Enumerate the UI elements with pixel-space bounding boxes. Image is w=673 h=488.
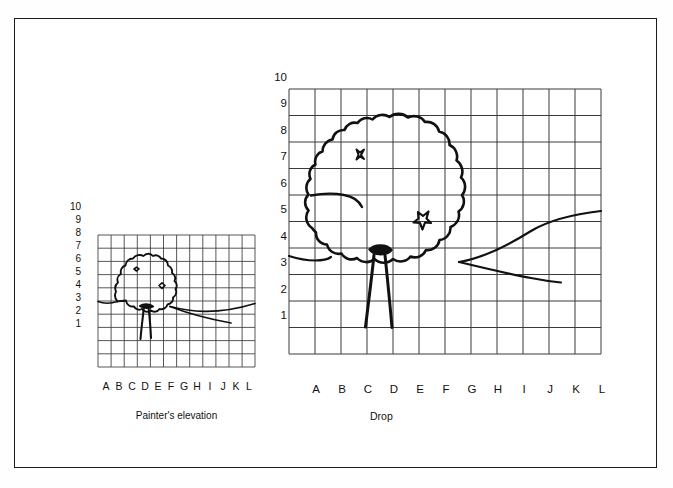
x-tick-right-B: B (333, 384, 351, 396)
x-tick-right-H: H (489, 384, 507, 396)
figure-frame: 10 9 8 7 6 5 4 3 2 1 (14, 18, 657, 468)
chart-right-plot (279, 83, 619, 383)
caption-drop: Drop (370, 410, 500, 422)
canopy-inner-contour (311, 194, 362, 207)
x-tick-right-C: C (359, 384, 377, 396)
x-tick-right-F: F (437, 384, 455, 396)
tree-trunk-right (366, 255, 393, 328)
x-tick-right-L: L (593, 384, 611, 396)
x-tick-right-K: K (567, 384, 585, 396)
tree-canopy-right (305, 114, 465, 263)
x-tick-right-J: J (541, 384, 559, 396)
x-tick-right-A: A (307, 384, 325, 396)
x-tick-right-D: D (385, 384, 403, 396)
trunk-junction-mass (369, 245, 392, 255)
canopy-void-lower-right (414, 212, 432, 230)
x-tick-right-I: I (515, 384, 533, 396)
page-canvas: 10 9 8 7 6 5 4 3 2 1 (0, 0, 673, 488)
x-tick-right-G: G (463, 384, 481, 396)
canopy-void-upper-right (357, 150, 365, 160)
y-tick-right-10: 10 (267, 72, 287, 84)
chart-drop: 10 9 8 7 6 5 4 3 2 1 (15, 19, 673, 449)
x-tick-right-E: E (411, 384, 429, 396)
